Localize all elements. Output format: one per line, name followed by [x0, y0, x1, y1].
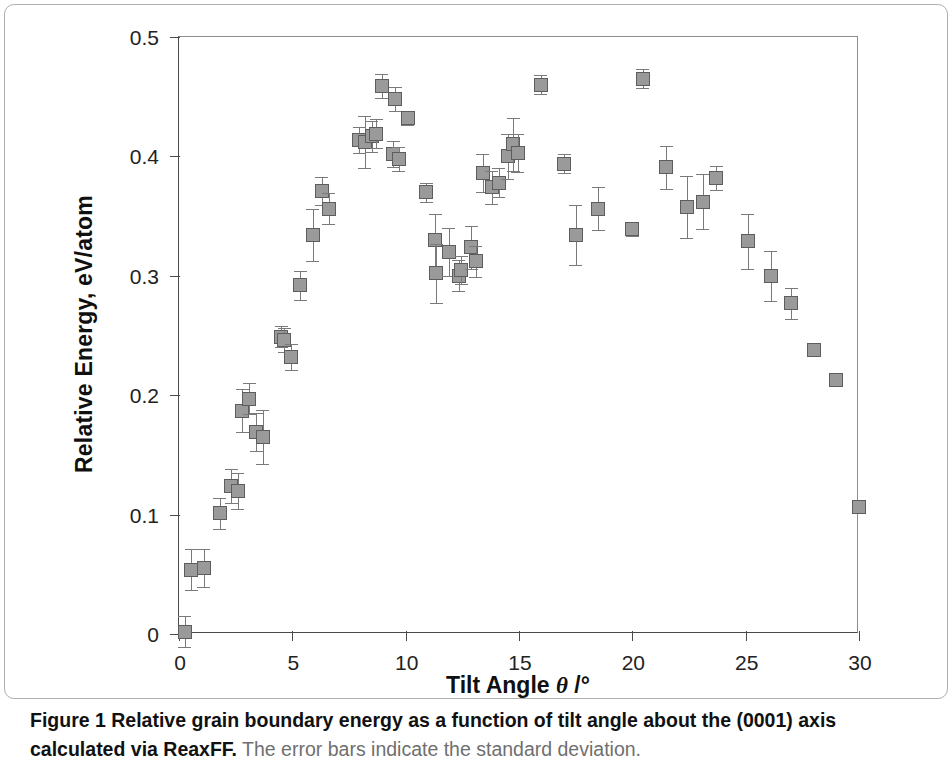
- x-tick-label-1: 5: [287, 651, 299, 675]
- error-bar-cap: [592, 187, 605, 188]
- data-point: [696, 195, 710, 209]
- x-tick-6: 30: [859, 631, 860, 641]
- error-bar-cap: [250, 451, 263, 452]
- error-bar-cap: [275, 347, 288, 348]
- error-bar-cap: [197, 549, 210, 550]
- x-tick-2: 10: [406, 631, 407, 641]
- error-bar-cap: [213, 529, 226, 530]
- y-tick-label-4: 0.4: [130, 145, 159, 169]
- error-bar-cap: [243, 383, 256, 384]
- data-point: [231, 484, 245, 498]
- data-point: [680, 200, 694, 214]
- y-tick-2: 0.2: [170, 395, 180, 396]
- x-axis-title-units: /°: [568, 672, 590, 698]
- error-bar-cap: [236, 432, 249, 433]
- theta-symbol: θ: [556, 673, 568, 698]
- error-bar-cap: [710, 190, 723, 191]
- x-tick-label-5: 25: [735, 651, 758, 675]
- error-bar-cap: [764, 251, 777, 252]
- data-point: [178, 625, 192, 639]
- error-bar-cap: [285, 344, 298, 345]
- x-tick-label-6: 30: [848, 651, 871, 675]
- data-point: [852, 500, 866, 514]
- error-bar-cap: [370, 119, 383, 120]
- data-point: [659, 160, 673, 174]
- x-axis-title: Tilt Angle θ /°: [446, 672, 590, 699]
- error-bar-cap: [178, 616, 191, 617]
- y-tick-1: 0.1: [170, 515, 180, 516]
- error-bar-cap: [430, 303, 443, 304]
- data-point: [392, 152, 406, 166]
- error-bar-cap: [213, 498, 226, 499]
- error-bar-cap: [256, 410, 269, 411]
- x-tick-1: 5: [292, 631, 293, 641]
- error-bar-cap: [507, 118, 520, 119]
- y-tick-3: 0.3: [170, 276, 180, 277]
- data-point: [235, 404, 249, 418]
- error-bar-cap: [455, 284, 468, 285]
- data-point: [322, 202, 336, 216]
- error-bar-cap: [197, 587, 210, 588]
- error-bar-cap: [455, 256, 468, 257]
- error-bar-cap: [278, 328, 291, 329]
- error-bar-cap: [636, 69, 649, 70]
- data-point: [197, 561, 211, 575]
- error-bar-cap: [231, 473, 244, 474]
- x-tick-label-3: 15: [508, 651, 531, 675]
- error-bar-cap: [387, 141, 400, 142]
- error-bar-cap: [492, 168, 505, 169]
- error-bar-cap: [306, 261, 319, 262]
- error-bar-cap: [294, 300, 307, 301]
- error-bar-cap: [785, 288, 798, 289]
- error-bar-cap: [231, 509, 244, 510]
- figure-caption: Figure 1 Relative grain boundary energy …: [30, 706, 930, 764]
- x-tick-3: 15: [519, 631, 520, 641]
- error-bar-cap: [429, 214, 442, 215]
- error-bar-cap: [442, 228, 455, 229]
- data-point: [442, 245, 456, 259]
- error-bar-cap: [511, 172, 524, 173]
- error-bar-cap: [485, 204, 498, 205]
- error-bar-cap: [389, 87, 402, 88]
- data-point: [401, 111, 415, 125]
- data-point: [591, 202, 605, 216]
- data-point: [429, 266, 443, 280]
- error-bar-cap: [476, 154, 489, 155]
- x-tick-label-2: 10: [395, 651, 418, 675]
- data-point: [829, 373, 843, 387]
- y-tick-5: 0.5: [170, 37, 180, 38]
- error-bar-cap: [680, 176, 693, 177]
- x-tick-5: 25: [746, 631, 747, 641]
- data-point: [709, 171, 723, 185]
- error-bar-cap: [392, 171, 405, 172]
- error-bar-cap: [358, 116, 371, 117]
- data-point: [557, 157, 571, 171]
- error-bar-cap: [243, 414, 256, 415]
- data-point: [511, 146, 525, 160]
- y-tick-label-1: 0.1: [130, 504, 159, 528]
- error-bar-cap: [558, 154, 571, 155]
- data-point: [293, 278, 307, 292]
- error-bar-cap: [511, 134, 524, 135]
- chart-figure: Relative Energy, eV/atom Tilt Angle θ /°…: [0, 0, 952, 700]
- error-bar-cap: [452, 291, 465, 292]
- error-bar-cap: [250, 413, 263, 414]
- error-bar-cap: [710, 166, 723, 167]
- error-bar-cap: [322, 193, 335, 194]
- plot-area: 00.10.20.30.40.5 051015202530: [178, 36, 858, 633]
- data-point: [569, 228, 583, 242]
- data-point: [428, 233, 442, 247]
- y-axis-title: Relative Energy, eV/atom: [71, 195, 98, 473]
- error-bar-cap: [501, 179, 514, 180]
- error-bar-cap: [660, 189, 673, 190]
- error-bar-cap: [626, 236, 639, 237]
- y-tick-label-5: 0.5: [130, 26, 159, 50]
- error-bar-cap: [387, 167, 400, 168]
- error-bar-cap: [469, 277, 482, 278]
- error-bar-cap: [401, 125, 414, 126]
- data-point: [419, 185, 433, 199]
- data-point: [306, 228, 320, 242]
- data-point: [807, 343, 821, 357]
- error-bar-cap: [353, 153, 366, 154]
- error-bar-cap: [764, 301, 777, 302]
